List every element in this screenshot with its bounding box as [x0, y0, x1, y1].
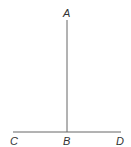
label-a: A: [62, 7, 70, 19]
label-c: C: [10, 135, 18, 147]
geometry-diagram: A C B D: [0, 0, 131, 147]
label-b: B: [63, 135, 70, 147]
label-d: D: [116, 135, 124, 147]
